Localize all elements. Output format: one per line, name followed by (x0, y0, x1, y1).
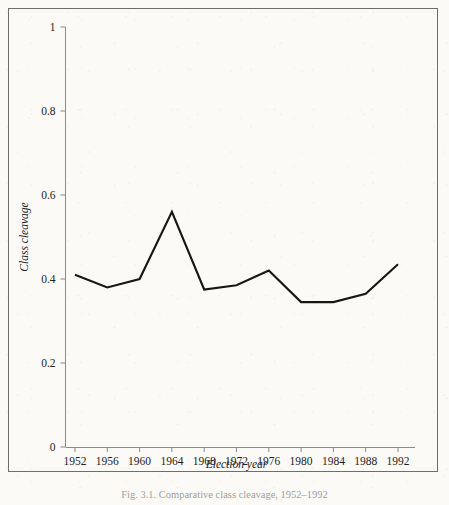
x-tick-label-1980: 1980 (290, 455, 313, 467)
y-tick-label-0.6: 0.6 (41, 189, 56, 201)
x-tick-label-1984: 1984 (322, 455, 345, 467)
figure-caption: Fig. 3.1. Comparative class cleavage, 19… (0, 489, 449, 500)
y-tick-label-0: 0 (50, 441, 56, 453)
y-tick-label-0.4: 0.4 (41, 273, 56, 285)
x-tick-label-1964: 1964 (160, 455, 183, 467)
y-axis-tick-labels: 00.20.40.60.81 (41, 21, 56, 453)
y-tick-label-0.2: 0.2 (41, 357, 56, 369)
x-tick-label-1992: 1992 (387, 455, 410, 467)
class-cleavage-series-line (75, 212, 398, 302)
y-axis-ticks (61, 27, 66, 447)
y-tick-label-1: 1 (50, 21, 56, 33)
figure-page: 00.20.40.60.81 1952195619601964196819721… (0, 0, 449, 505)
x-tick-label-1988: 1988 (354, 455, 377, 467)
y-axis-title: Class cleavage (18, 202, 31, 271)
x-tick-label-1956: 1956 (96, 455, 119, 467)
x-tick-label-1960: 1960 (128, 455, 151, 467)
line-chart: 00.20.40.60.81 1952195619601964196819721… (0, 0, 449, 505)
y-tick-label-0.8: 0.8 (41, 105, 56, 117)
x-tick-label-1952: 1952 (64, 455, 87, 467)
x-axis-title: Election year (205, 458, 268, 471)
